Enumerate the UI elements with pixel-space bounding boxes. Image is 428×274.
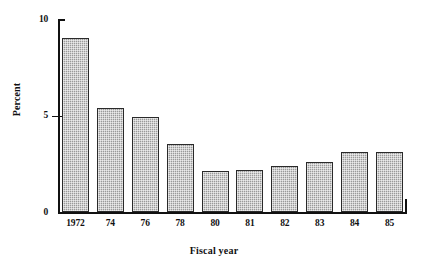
bar-1972 (62, 38, 89, 212)
x-axis-ticklabel-83: 83 (302, 218, 337, 229)
bar-83 (306, 162, 333, 212)
bar-76 (132, 117, 159, 212)
bar-78 (167, 144, 194, 212)
bar-84 (341, 152, 368, 212)
bar-chart: 10 5 0 Percent Fiscal year 1972747678808… (0, 0, 428, 274)
bar-82 (271, 166, 298, 212)
bar-74 (97, 108, 124, 212)
y-axis-ticklabel-0: 0 (26, 207, 48, 217)
x-axis-ticklabel-78: 78 (163, 218, 198, 229)
bar-81 (236, 170, 263, 212)
plot-area (58, 19, 407, 212)
x-axis-ticklabel-82: 82 (267, 218, 302, 229)
x-axis-ticklabel-85: 85 (372, 218, 407, 229)
x-axis-ticklabel-80: 80 (198, 218, 233, 229)
x-axis-ticklabel-84: 84 (337, 218, 372, 229)
bar-80 (202, 171, 229, 212)
x-axis-ticklabel-1972: 1972 (58, 218, 93, 229)
y-axis-ticklabel-10: 10 (26, 14, 48, 24)
x-axis-ticklabel-81: 81 (233, 218, 268, 229)
bar-85 (376, 152, 403, 212)
x-axis-ticklabel-74: 74 (93, 218, 128, 229)
x-axis-line (58, 212, 407, 214)
y-axis-title: Percent (11, 70, 22, 130)
y-axis-ticklabel-5: 5 (26, 110, 48, 120)
x-axis-title: Fiscal year (0, 245, 428, 256)
x-axis-ticklabel-76: 76 (128, 218, 163, 229)
